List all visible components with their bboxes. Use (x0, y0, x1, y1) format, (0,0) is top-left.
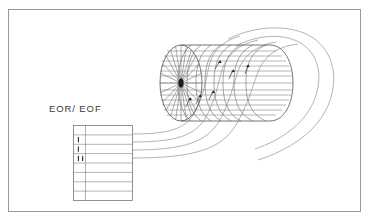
buffer-label: EOR/ EOF (49, 103, 102, 114)
buffer-block[interactable] (74, 126, 133, 201)
diagram-canvas: EOR/ EOF (0, 0, 373, 223)
drum-hub (178, 78, 183, 87)
figure-root: EOR/ EOF (0, 0, 373, 223)
